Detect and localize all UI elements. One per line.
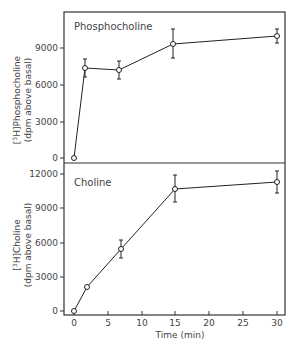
x-axis-label: Time (min)	[155, 330, 205, 340]
svg-text:(dpm above basal): (dpm above basal)	[23, 203, 33, 287]
top-y-tick-labels: 0 3000 6000 9000	[35, 43, 58, 163]
y-tick-label: 0	[52, 306, 58, 316]
phosphocholine-markers	[72, 34, 280, 161]
x-tick-label: 5	[105, 318, 111, 328]
x-tick-labels: 0 5 10 15 20 25 30	[71, 318, 283, 328]
data-point	[275, 34, 280, 39]
y-tick-label: 3000	[35, 117, 58, 127]
data-point	[83, 66, 88, 71]
data-point	[72, 309, 77, 314]
x-tick-label: 20	[203, 318, 215, 328]
data-point	[117, 68, 122, 73]
data-point	[119, 247, 124, 252]
bottom-y-tick-labels: 0 3000 6000 9000 12000	[29, 169, 58, 316]
x-tick-label: 10	[136, 318, 148, 328]
bottom-panel-title: Choline	[74, 177, 112, 188]
x-tick-label: 0	[71, 318, 77, 328]
x-tick-label: 25	[237, 318, 248, 328]
x-tick-label: 15	[169, 318, 180, 328]
y-tick-label: 9000	[35, 203, 58, 213]
data-point	[171, 42, 176, 47]
data-point	[275, 180, 280, 185]
svg-text:[3H]Choline: [3H]Choline	[11, 219, 22, 271]
svg-text:(dpm above basal): (dpm above basal)	[23, 58, 33, 142]
data-point	[72, 156, 77, 161]
plot-frame	[64, 12, 285, 315]
y-tick-label: 3000	[35, 272, 58, 282]
svg-text:[3H]Phosphocholine: [3H]Phosphocholine	[11, 55, 22, 144]
y-tick-label: 6000	[35, 80, 58, 90]
x-tick-label: 30	[271, 318, 283, 328]
chart: 0 3000 6000 9000 0 3000 6000 9000 12000 …	[0, 0, 296, 344]
y-tick-label: 0	[52, 153, 58, 163]
top-panel-title: Phosphocholine	[74, 21, 153, 32]
y-tick-label: 9000	[35, 43, 58, 53]
data-point	[85, 285, 90, 290]
y-tick-label: 12000	[29, 169, 58, 179]
top-y-axis-label: [3H]Phosphocholine (dpm above basal)	[11, 55, 33, 144]
choline-series	[74, 171, 279, 311]
phosphocholine-series	[74, 29, 279, 158]
y-tick-label: 6000	[35, 238, 58, 248]
bottom-y-axis-label: [3H]Choline (dpm above basal)	[11, 203, 33, 287]
data-point	[173, 187, 178, 192]
